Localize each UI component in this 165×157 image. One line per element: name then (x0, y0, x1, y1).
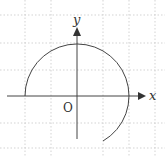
y-axis-label: y (72, 12, 81, 27)
x-axis-arrow-icon (138, 92, 146, 100)
origin-label: O (63, 101, 73, 115)
coordinate-diagram: y x O (0, 0, 165, 157)
diagram-canvas: y x O (0, 0, 165, 157)
x-axis-label: x (149, 88, 157, 103)
y-axis-arrow-icon (73, 27, 81, 36)
grid-lines (0, 0, 165, 157)
